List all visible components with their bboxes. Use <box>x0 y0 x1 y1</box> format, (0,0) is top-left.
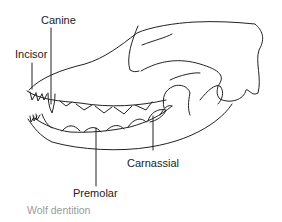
label-incisor: Incisor <box>15 48 47 60</box>
skull-outline <box>29 22 263 102</box>
wolf-dentition-figure: Canine Incisor Premolar Carnassial Wolf … <box>0 0 282 222</box>
label-premolar: Premolar <box>73 187 118 199</box>
skull-drawing <box>0 0 282 222</box>
figure-caption: Wolf dentition <box>27 204 90 216</box>
label-carnassial: Carnassial <box>127 157 179 169</box>
lower-jaw-line <box>34 106 172 132</box>
label-canine: Canine <box>41 14 76 26</box>
